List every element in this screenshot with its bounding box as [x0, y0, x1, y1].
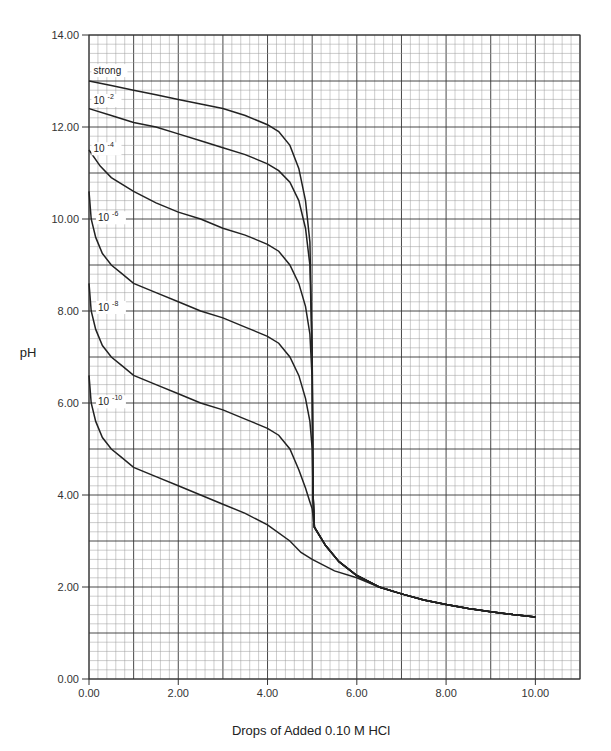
y-tick-label: 12.00: [51, 121, 79, 133]
x-tick-label: 6.00: [346, 687, 367, 699]
x-tick-label: 8.00: [435, 687, 456, 699]
titration-chart: 0.002.004.006.008.0010.0012.0014.00 0.00…: [0, 0, 611, 751]
x-tick-label: 10.00: [522, 687, 550, 699]
y-tick-label: 10.00: [51, 213, 79, 225]
y-axis: 0.002.004.006.008.0010.0012.0014.00: [51, 29, 89, 685]
y-axis-label: pH: [20, 345, 37, 360]
series-label: strong: [93, 65, 121, 76]
y-tick-label: 2.00: [58, 581, 79, 593]
x-tick-label: 0.00: [78, 687, 99, 699]
y-tick-label: 8.00: [58, 305, 79, 317]
y-tick-label: 14.00: [51, 29, 79, 41]
grid: [89, 35, 580, 679]
x-axis: 0.002.004.006.008.0010.00: [78, 679, 549, 699]
y-tick-label: 0.00: [58, 673, 79, 685]
x-tick-label: 2.00: [168, 687, 189, 699]
y-tick-label: 4.00: [58, 489, 79, 501]
y-tick-label: 6.00: [58, 397, 79, 409]
x-axis-label: Drops of Added 0.10 M HCl: [232, 723, 390, 738]
x-tick-label: 4.00: [257, 687, 278, 699]
